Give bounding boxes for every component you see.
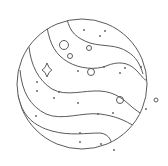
star-dot-icon [58,91,60,93]
crater-ring-icon [60,41,69,50]
sparkle-star-icon [42,63,52,77]
star-dot-icon [140,66,142,68]
star-dot-icon [124,67,126,69]
star-dot-icon [113,149,115,151]
band-line [67,19,143,74]
crater-ring-icon [154,98,158,102]
crater-ring-icon [68,54,73,59]
star-dot-icon [79,132,81,134]
star-dot-icon [77,102,79,104]
star-dot-icon [53,97,55,99]
star-dot-icon [83,29,85,31]
planet-illustration [0,0,168,166]
star-dot-icon [103,66,105,68]
band-line [29,47,144,116]
star-dot-icon [112,112,114,114]
star-dot-icon [79,141,81,143]
crater-ring-icon [88,69,95,76]
planet-outline [17,19,147,149]
star-dot-icon [119,72,121,74]
star-dot-icon [145,108,147,110]
star-dot-icon [36,90,38,92]
band-line [47,27,146,80]
star-dot-icon [104,30,106,32]
crater-ring-icon [87,46,92,51]
star-dot-icon [77,70,79,72]
star-dot-icon [100,143,102,145]
planet-bands [18,19,146,150]
planet-line-art-icon [0,0,168,166]
crater-rings [60,41,159,104]
star-dot-icon [97,113,99,115]
star-dot-icon [36,81,38,83]
star-dot-icon [35,115,37,117]
star-dot-icon [99,35,101,37]
